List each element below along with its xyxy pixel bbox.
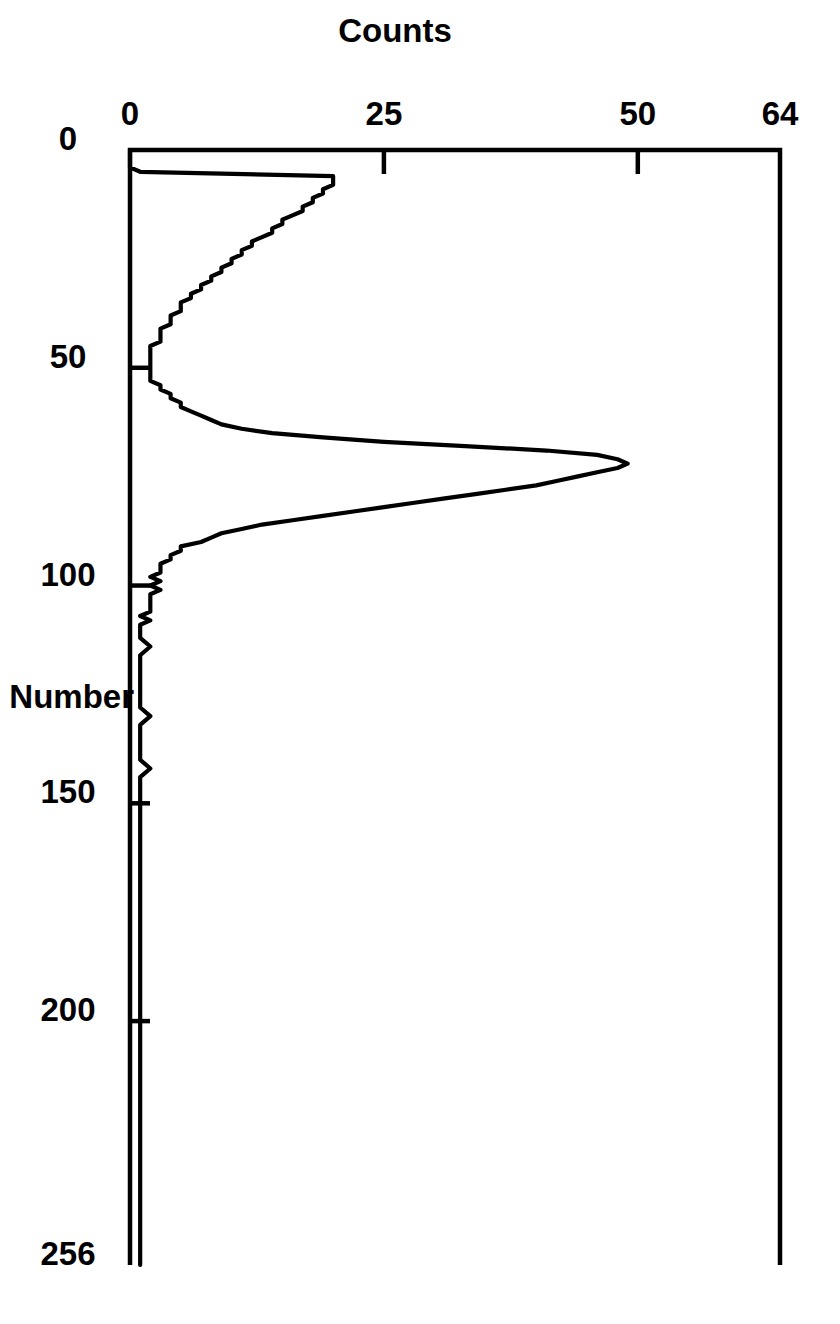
- axis-frame: [130, 150, 780, 1265]
- plot-frame: [130, 150, 780, 1265]
- data-trace-spectrum: [130, 150, 628, 1265]
- x-tick-label-150: 150: [40, 773, 95, 810]
- x-tick-label-0: 0: [59, 120, 77, 157]
- plot-area: 050100150200256 0255064 Channel Number C…: [0, 0, 840, 1324]
- y-axis-tick-labels: 0255064: [121, 95, 799, 132]
- x-tick-label-256: 256: [40, 1235, 95, 1272]
- rotated-plot-wrapper: 050100150200256 0255064 Channel Number C…: [0, 0, 840, 1324]
- y-tick-label-0: 0: [121, 95, 139, 132]
- y-tick-label-64: 64: [762, 95, 799, 132]
- x-tick-label-100: 100: [40, 556, 95, 593]
- x-axis-title: Channel Number: [0, 678, 134, 715]
- spectrum-line-chart: 050100150200256 0255064 Channel Number C…: [0, 0, 840, 1324]
- y-axis-ticks: [384, 150, 638, 174]
- y-tick-label-50: 50: [619, 95, 656, 132]
- x-tick-label-200: 200: [40, 991, 95, 1028]
- y-axis-title: Counts: [338, 12, 452, 49]
- x-tick-label-50: 50: [50, 338, 87, 375]
- y-tick-label-25: 25: [366, 95, 403, 132]
- figure-canvas: 050100150200256 0255064 Channel Number C…: [0, 0, 840, 1324]
